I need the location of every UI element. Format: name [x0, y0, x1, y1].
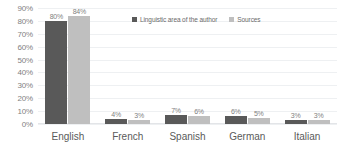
- bar-slot: 80%: [45, 8, 67, 124]
- bar-value-label: 6%: [194, 108, 204, 115]
- y-axis-tick-label: 70%: [18, 29, 33, 38]
- bar-value-label: 3%: [314, 112, 324, 119]
- bar-slot: 84%: [68, 8, 90, 124]
- bar-slot: 6%: [188, 8, 210, 124]
- bar[interactable]: 4%: [105, 119, 127, 124]
- bar-value-label: 3%: [134, 112, 144, 119]
- bar[interactable]: 6%: [188, 116, 210, 124]
- bar[interactable]: 3%: [308, 120, 330, 124]
- legend-item-series-0: Linguistic area of the author: [132, 16, 217, 23]
- x-axis-category-label: German: [217, 131, 277, 142]
- bar-groups: 80%84%4%3%7%6%6%5%3%3%: [38, 8, 337, 124]
- y-axis-tick-label: 20%: [18, 94, 33, 103]
- y-axis-tick-label: 60%: [18, 42, 33, 51]
- bar-chart: 90%80%70%60%50%40%30%20%10%0% 80%84%4%3%…: [0, 0, 341, 157]
- x-axis-category-label: Spanish: [158, 131, 218, 142]
- bar-group: 6%5%: [217, 8, 277, 124]
- legend-label: Linguistic area of the author: [140, 16, 217, 23]
- y-axis-tick-label: 90%: [18, 4, 33, 13]
- bar[interactable]: 84%: [68, 16, 90, 124]
- y-axis-tick-label: 40%: [18, 68, 33, 77]
- x-axis-category-label: Italian: [277, 131, 337, 142]
- bar-slot: 7%: [165, 8, 187, 124]
- bar-value-label: 7%: [171, 107, 181, 114]
- bar-slot: 3%: [285, 8, 307, 124]
- bar-slot: 5%: [248, 8, 270, 124]
- y-axis: 90%80%70%60%50%40%30%20%10%0%: [0, 8, 36, 124]
- bar[interactable]: 6%: [225, 116, 247, 124]
- legend-item-series-1: Sources: [229, 16, 260, 23]
- plot-area: 80%84%4%3%7%6%6%5%3%3%: [38, 8, 337, 124]
- legend-swatch-icon: [229, 17, 234, 22]
- y-axis-tick-label: 50%: [18, 55, 33, 64]
- bar-slot: 3%: [308, 8, 330, 124]
- bar-slot: 3%: [128, 8, 150, 124]
- bar-group: 4%3%: [98, 8, 158, 124]
- bar[interactable]: 5%: [248, 118, 270, 124]
- x-axis-category-label: French: [98, 131, 158, 142]
- x-axis-categories: EnglishFrenchSpanishGermanItalian: [38, 131, 337, 142]
- bar[interactable]: 3%: [128, 120, 150, 124]
- y-axis-tick-label: 30%: [18, 81, 33, 90]
- bar-value-label: 6%: [231, 108, 241, 115]
- bar-value-label: 3%: [291, 112, 301, 119]
- gridline: [38, 124, 337, 125]
- legend-label: Sources: [237, 16, 260, 23]
- bar-value-label: 5%: [254, 110, 264, 117]
- bar-value-label: 80%: [50, 13, 63, 20]
- bar[interactable]: 7%: [165, 115, 187, 124]
- y-axis-tick-label: 0%: [22, 120, 33, 129]
- bar-group: 7%6%: [158, 8, 218, 124]
- bar-value-label: 4%: [111, 111, 121, 118]
- bar-group: 80%84%: [38, 8, 98, 124]
- legend-swatch-icon: [132, 17, 137, 22]
- bar-slot: 6%: [225, 8, 247, 124]
- chart-legend: Linguistic area of the author Sources: [132, 16, 260, 23]
- bar-value-label: 84%: [73, 8, 86, 15]
- y-axis-tick-label: 80%: [18, 16, 33, 25]
- bar[interactable]: 3%: [285, 120, 307, 124]
- x-axis-category-label: English: [38, 131, 98, 142]
- bar-slot: 4%: [105, 8, 127, 124]
- bar-group: 3%3%: [277, 8, 337, 124]
- y-axis-tick-label: 10%: [18, 107, 33, 116]
- bar[interactable]: 80%: [45, 21, 67, 124]
